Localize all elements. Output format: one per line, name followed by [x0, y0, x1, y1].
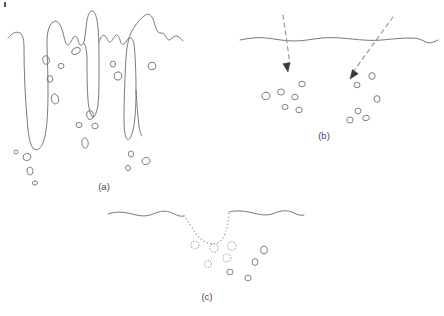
panel-label-c: (c) — [201, 291, 212, 302]
corner-artifact-mark — [4, 2, 6, 7]
panel-label-b: (b) — [318, 130, 330, 141]
panel-label-a: (a) — [98, 181, 110, 192]
figure-background — [0, 0, 444, 316]
three-panel-diagram: (a) (b) (c) — [0, 0, 444, 316]
